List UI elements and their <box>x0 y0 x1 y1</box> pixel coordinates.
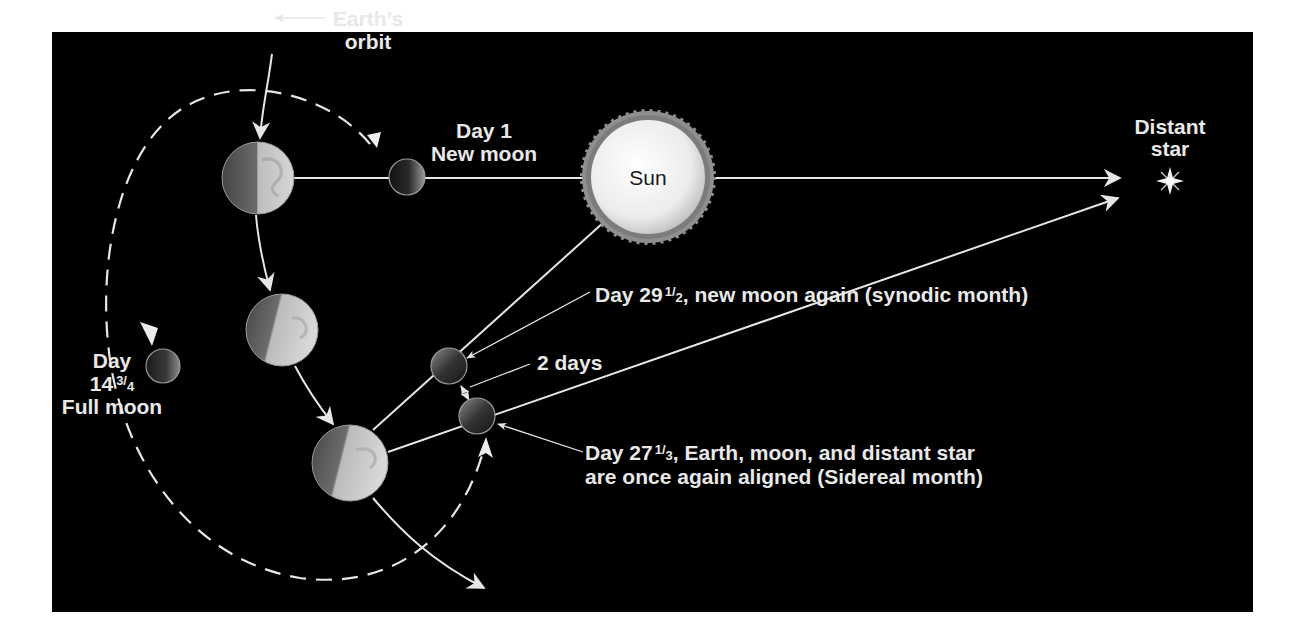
two-days-label: 2 days <box>537 351 602 374</box>
sidereal-month-label-line2: are once again aligned (Sidereal month) <box>585 465 983 488</box>
distant-star-label-line2: star <box>1151 137 1190 160</box>
moon-day14-full <box>146 349 180 383</box>
earth-mid-orbit <box>246 294 318 366</box>
earth-day1 <box>222 142 294 214</box>
distant-star-label: Distant <box>1134 115 1205 138</box>
lunar-month-diagram: Sun Earth’s orbit Day 1 New moon Distant… <box>0 0 1305 640</box>
full-moon-day-label: Day <box>93 349 132 372</box>
synodic-month-label: Day 291/2, new moon again (synodic month… <box>595 283 1028 306</box>
sun: Sun <box>582 111 714 243</box>
sidereal-month-label: Day 271/3, Earth, moon, and distant star <box>585 441 975 464</box>
earths-orbit-label-line2: orbit <box>345 30 392 53</box>
full-moon-label: Full moon <box>62 395 162 418</box>
moon-day1-new <box>389 159 425 195</box>
earth-final <box>312 425 388 501</box>
earths-orbit-label: Earth’s <box>333 7 403 30</box>
day1-label: Day 1 <box>456 119 512 142</box>
moon-day27-sidereal <box>459 398 495 434</box>
new-moon-label: New moon <box>431 142 537 165</box>
sun-label: Sun <box>629 166 666 189</box>
moon-day29-synodic <box>431 348 467 384</box>
